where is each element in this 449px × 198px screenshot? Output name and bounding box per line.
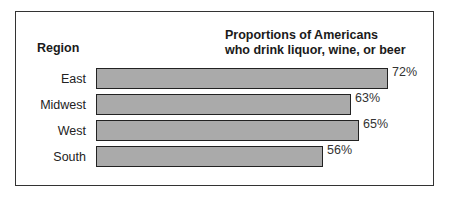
category-label: West (6, 120, 86, 142)
bar (96, 120, 359, 141)
chart-title: Proportions of Americans who drink liquo… (225, 28, 406, 58)
value-label: 72% (392, 65, 417, 79)
value-label: 63% (355, 91, 380, 105)
category-label: South (6, 146, 86, 168)
value-label: 65% (363, 117, 388, 131)
value-label: 56% (327, 143, 352, 157)
chart-title-line-2: who drink liquor, wine, or beer (225, 43, 406, 58)
chart-title-line-1: Proportions of Americans (225, 28, 406, 43)
bar (96, 94, 351, 115)
bar (96, 68, 388, 89)
bar-row-west: West65% (0, 120, 449, 142)
category-label: East (6, 68, 86, 90)
bar-row-east: East72% (0, 68, 449, 90)
category-label: Midwest (6, 94, 86, 116)
bar-row-midwest: Midwest63% (0, 94, 449, 116)
bar (96, 146, 323, 167)
axis-label-region: Region (37, 41, 79, 55)
bar-row-south: South56% (0, 146, 449, 168)
